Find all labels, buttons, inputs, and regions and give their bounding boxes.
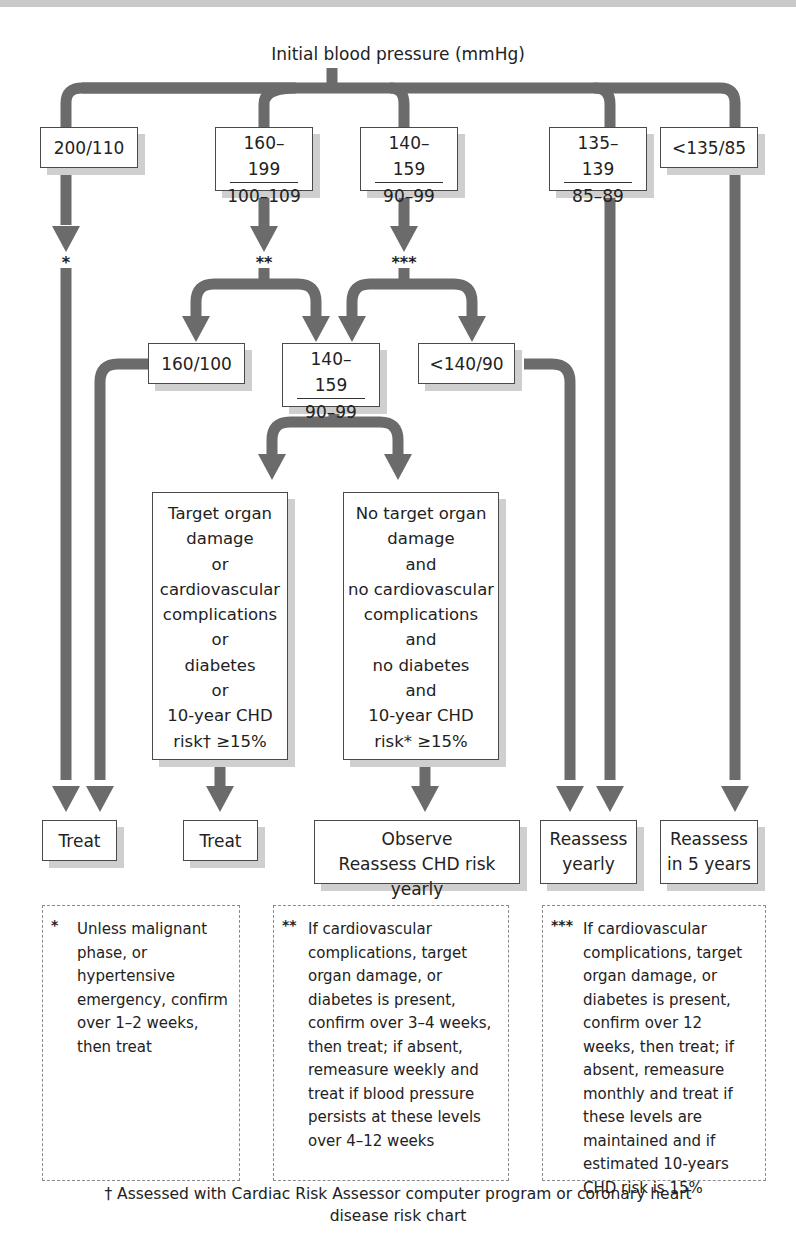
footnote-text: If cardiovascular complications, target … [308,920,491,1150]
footnote-triple-star: *** If cardiovascular complications, tar… [542,905,766,1181]
condition-line: and [344,552,498,577]
outcome-sublabel: Reassess CHD risk yearly [315,852,519,902]
condition-line: complications [153,602,287,627]
condition-line: damage [344,526,498,551]
condition-line: and [344,627,498,652]
outcome-label: Treat [199,828,241,854]
outcome-treat-2: Treat [183,820,258,861]
condition-line: Target organ [153,501,287,526]
diastolic-range: 90–99 [361,183,457,209]
outcome-label: Reassess [541,827,636,852]
condition-line: and [344,678,498,703]
bp-box-160-199: 160–199 100–109 [215,127,313,191]
bp-box-140-159-followup: 140–159 90–99 [282,343,380,407]
diastolic-range: 90–99 [283,399,379,425]
outcome-reassess-yearly: Reassess yearly [540,820,637,884]
bp-box-135-139: 135–139 85–89 [549,127,647,191]
condition-line: diabetes [153,653,287,678]
condition-line: or [153,552,287,577]
marker-triple-star: *** [374,253,434,272]
outcome-reassess-5-years: Reassess in 5 years [660,820,758,884]
footnote-text: If cardiovascular complications, target … [583,920,742,1197]
bp-box-160-100: 160/100 [148,343,245,384]
footnote-single-star: * Unless malignant phase, or hypertensiv… [42,905,240,1181]
outcome-label: Observe [315,827,519,852]
outcome-label: Reassess [661,827,757,852]
systolic-range: 140–159 [375,128,443,183]
condition-line: cardiovascular [153,577,287,602]
footer-line-1: † Assessed with Cardiac Risk Assessor co… [0,1183,796,1205]
condition-line: 10-year CHD [344,703,498,728]
diastolic-range: 85–89 [550,183,646,209]
marker-single-star: * [36,253,96,272]
systolic-range: 140–159 [297,344,365,399]
outcome-sublabel: in 5 years [661,852,757,877]
condition-line: risk† ≥15% [153,729,287,754]
footer-line-2: disease risk chart [0,1205,796,1227]
bp-label: <135/85 [672,135,746,161]
bp-box-lt-135-85: <135/85 [660,127,758,168]
bp-box-lt-140-90: <140/90 [418,343,515,384]
condition-line: or [153,678,287,703]
dagger-footnote: † Assessed with Cardiac Risk Assessor co… [0,1183,796,1227]
footnote-double-star: ** If cardiovascular complications, targ… [273,905,509,1181]
outcome-label: Treat [58,828,100,854]
condition-line: no cardiovascular [344,577,498,602]
bp-label: 160/100 [161,351,232,377]
condition-line: damage [153,526,287,551]
bp-box-140-159: 140–159 90–99 [360,127,458,191]
bp-box-200-110: 200/110 [40,127,138,168]
outcome-observe: Observe Reassess CHD risk yearly [314,820,520,884]
condition-risk-present: Target organ damage or cardiovascular co… [152,492,288,760]
condition-line: or [153,627,287,652]
condition-line: complications [344,602,498,627]
condition-line: no diabetes [344,653,498,678]
condition-line: 10-year CHD [153,703,287,728]
bp-label: 200/110 [54,135,125,161]
condition-risk-absent: No target organ damage and no cardiovasc… [343,492,499,760]
footnote-mark: * [51,914,58,938]
systolic-range: 160–199 [230,128,298,183]
bp-label: <140/90 [429,351,503,377]
footnote-mark: *** [551,914,573,938]
outcome-treat-1: Treat [42,820,117,861]
systolic-range: 135–139 [564,128,632,183]
diastolic-range: 100–109 [216,183,312,209]
outcome-sublabel: yearly [541,852,636,877]
condition-line: risk* ≥15% [344,729,498,754]
marker-double-star: ** [234,253,294,272]
footnote-mark: ** [282,914,297,938]
footnote-text: Unless malignant phase, or hypertensive … [77,920,228,1056]
condition-line: No target organ [344,501,498,526]
